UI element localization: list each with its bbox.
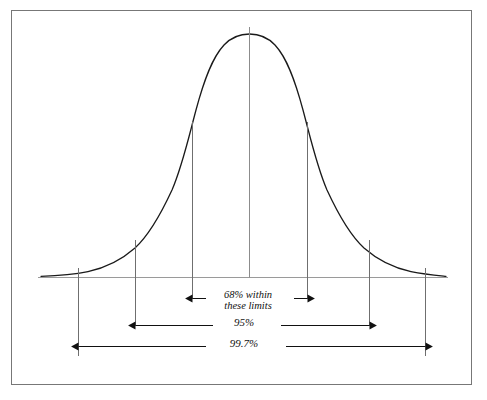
interval-68-label: 68% within these limits bbox=[206, 289, 290, 312]
interval-68-label-line1: 68% within bbox=[206, 289, 290, 300]
interval-997-label: 99.7% bbox=[208, 338, 280, 350]
interval-95-label: 95% bbox=[214, 317, 274, 329]
figure-page: 68% within these limits 95% 99.7% bbox=[0, 0, 487, 400]
normal-curve bbox=[41, 34, 446, 276]
interval-68-label-line2: these limits bbox=[206, 300, 290, 311]
